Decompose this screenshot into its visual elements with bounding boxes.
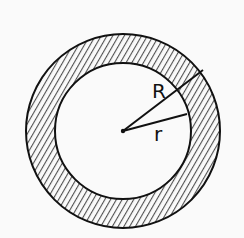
hatched-ring <box>0 0 244 238</box>
annulus-diagram: R r <box>0 0 244 238</box>
inner-radius-label: r <box>154 122 163 146</box>
center-point <box>121 129 125 133</box>
outer-radius-label: R <box>152 79 166 103</box>
